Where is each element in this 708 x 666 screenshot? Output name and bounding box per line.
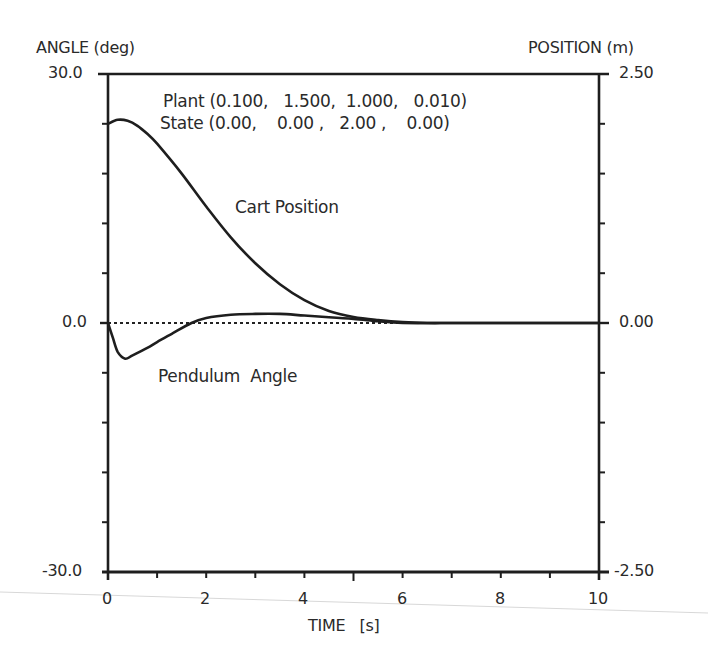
left-tick-top: 30.0: [48, 63, 82, 82]
pendulum-angle-curve: [108, 314, 599, 359]
cart-position-label: Cart Position: [235, 197, 339, 217]
x-tick-10: 10: [588, 589, 608, 608]
right-tick-mid: 0.00: [619, 312, 653, 331]
cart-position-curve: [108, 120, 599, 323]
plot-frame: [98, 74, 609, 580]
plant-parameters-annotation: Plant (0.100, 1.500, 1.000, 0.010): [163, 91, 467, 111]
left-tick-bottom: -30.0: [42, 561, 82, 580]
axis-ticks: [102, 124, 605, 581]
right-axis-title: POSITION (m): [528, 38, 634, 57]
x-tick-4: 4: [298, 589, 308, 608]
left-tick-mid: 0.0: [62, 312, 87, 331]
x-tick-0: 0: [102, 589, 112, 608]
pendulum-angle-label: Pendulum Angle: [158, 366, 297, 386]
x-tick-8: 8: [495, 589, 505, 608]
x-axis-title: TIME [s]: [308, 616, 380, 635]
x-tick-6: 6: [397, 589, 407, 608]
initial-state-annotation: State (0.00, 0.00 , 2.00 , 0.00): [160, 113, 450, 133]
right-tick-top: 2.50: [619, 63, 653, 82]
left-axis-title: ANGLE (deg): [36, 38, 135, 57]
right-tick-bottom: -2.50: [614, 561, 654, 580]
x-tick-2: 2: [200, 589, 210, 608]
